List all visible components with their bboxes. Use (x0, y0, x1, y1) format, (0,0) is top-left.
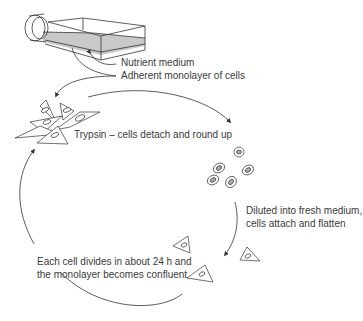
cycle-arrow-confluent (20, 150, 34, 244)
culture-flask-icon (25, 14, 145, 60)
dilute-step-label-1: Diluted into fresh medium, (246, 205, 362, 217)
cell-culture-diagram: Nutrient medium Adherent monolayer of ce… (0, 0, 363, 321)
divide-step-label-2: the monolayer becomes confluent (37, 269, 187, 281)
nutrient-leader-line (90, 53, 116, 65)
rounded-cells-icon (206, 147, 256, 190)
dilute-step-label-2: cells attach and flatten (246, 218, 346, 230)
nutrient-medium-label: Nutrient medium (121, 57, 194, 69)
monolayer-label: Adherent monolayer of cells (121, 70, 245, 82)
divide-step-label-1: Each cell divides in about 24 h and (37, 256, 192, 268)
trypsin-step-label: Trypsin – cells detach and round up (74, 129, 232, 141)
cycle-arrow-attach (225, 202, 237, 255)
cycle-arrow-trypsin (88, 91, 230, 122)
